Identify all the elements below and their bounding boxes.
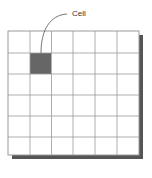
highlighted-cell — [30, 53, 51, 74]
grid-frame — [8, 31, 139, 155]
callout-label: Cell — [72, 9, 86, 18]
grid-diagram — [0, 0, 152, 178]
